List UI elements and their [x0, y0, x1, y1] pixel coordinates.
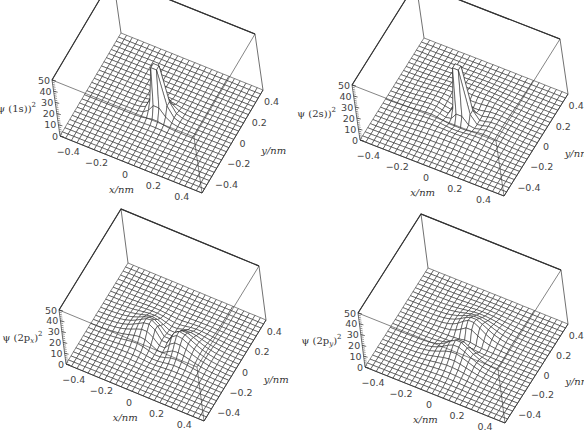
x-tick-label: −0.4 [57, 146, 80, 157]
x-tick-label: 0 [426, 399, 432, 410]
x-tick-label: 0.2 [149, 408, 164, 419]
y-tick-label: 0.4 [569, 330, 584, 341]
surface-plot-2px: 01020304050ψ (2px)2−0.4−0.200.20.4x/nm−0… [0, 217, 292, 434]
z-axis-ticks: 01020304050 [38, 75, 64, 142]
z-tick-label: 20 [43, 108, 55, 119]
x-tick-label: −0.4 [357, 150, 380, 161]
z-tick-label: 10 [44, 119, 56, 130]
surface-plot-1s: 01020304050ψ (1s))2−0.4−0.200.20.4x/nm−0… [0, 0, 292, 217]
x-tick-label: 0.4 [177, 419, 192, 430]
z-tick-label: 40 [340, 91, 352, 102]
x-axis-label: x/nm [113, 412, 138, 423]
z-tick-label: 0 [52, 131, 58, 142]
x-tick-label: −0.2 [386, 161, 409, 172]
x-axis-label: x/nm [413, 414, 438, 425]
z-tick-label: 40 [40, 86, 52, 97]
x-tick-label: 0.2 [449, 410, 464, 421]
x-tick-label: −0.4 [62, 374, 85, 385]
z-tick-label: 30 [347, 329, 359, 340]
plot-2py: 01020304050ψ (2py)2−0.4−0.200.20.4x/nm−0… [292, 217, 584, 434]
z-tick-label: 10 [51, 348, 63, 359]
y-tick-label: 0 [543, 141, 549, 152]
z-tick-label: 0 [58, 359, 64, 370]
y-axis-label: y/nm [260, 145, 286, 156]
x-tick-label: 0 [122, 169, 128, 180]
y-tick-label: 0.4 [264, 96, 279, 107]
x-tick-label: 0.4 [174, 191, 189, 202]
z-tick-label: 20 [49, 337, 61, 348]
x-tick-label: 0.2 [447, 183, 462, 194]
y-tick-label: 0 [242, 367, 248, 378]
z-tick-label: 30 [341, 102, 353, 113]
y-tick-label: 0.2 [556, 350, 571, 361]
y-tick-label: 0.2 [254, 346, 269, 357]
z-axis-label: ψ (2s))2 [297, 106, 336, 119]
y-tick-label: 0 [240, 138, 246, 149]
y-tick-label: −0.2 [530, 161, 553, 172]
x-tick-label: 0.4 [477, 421, 492, 432]
y-tick-label: −0.4 [215, 179, 238, 190]
z-tick-label: 30 [48, 326, 60, 337]
z-tick-label: 30 [41, 97, 53, 108]
z-tick-label: 40 [46, 315, 58, 326]
z-axis-label: ψ (2py)2 [301, 333, 341, 348]
y-tick-label: 0.2 [252, 117, 267, 128]
y-tick-label: −0.2 [230, 387, 253, 398]
z-tick-label: 20 [348, 340, 360, 351]
x-axis-label: x/nm [410, 187, 435, 198]
z-axis-ticks: 01020304050 [338, 80, 364, 146]
z-tick-label: 20 [343, 113, 355, 124]
z-tick-label: 0 [352, 135, 358, 146]
x-axis-label: x/nm [109, 184, 134, 195]
y-tick-label: 0 [544, 370, 550, 381]
y-tick-label: −0.4 [217, 407, 240, 418]
z-tick-label: 10 [344, 124, 356, 135]
x-tick-label: 0.4 [476, 194, 491, 205]
z-tick-label: 50 [45, 305, 57, 316]
surface-plot-2py: 01020304050ψ (2py)2−0.4−0.200.20.4x/nm−0… [292, 217, 584, 434]
plot-1s: 01020304050ψ (1s))2−0.4−0.200.20.4x/nm−0… [0, 0, 292, 217]
z-axis-label: ψ (1s))2 [0, 101, 36, 114]
y-tick-label: −0.4 [518, 409, 541, 420]
y-tick-label: 0.4 [569, 100, 584, 111]
z-tick-label: 50 [344, 308, 356, 319]
x-tick-label: 0 [423, 172, 429, 183]
z-tick-label: 0 [357, 362, 363, 373]
x-tick-label: 0.2 [146, 180, 161, 191]
y-tick-label: −0.2 [227, 158, 250, 169]
z-axis-label: ψ (2px)2 [2, 330, 42, 345]
x-tick-label: −0.2 [389, 388, 412, 399]
y-tick-label: −0.2 [531, 389, 554, 400]
x-tick-label: −0.2 [85, 157, 108, 168]
z-axis-ticks: 01020304050 [45, 305, 70, 370]
y-axis-label: y/nm [564, 148, 584, 159]
plot-2px: 01020304050ψ (2px)2−0.4−0.200.20.4x/nm−0… [0, 217, 292, 434]
z-tick-label: 50 [338, 80, 350, 91]
z-tick-label: 40 [345, 318, 357, 329]
y-tick-label: −0.4 [517, 182, 540, 193]
y-tick-label: 0.4 [267, 326, 282, 337]
surface-plot-2s: 01020304050ψ (2s))2−0.4−0.200.20.4x/nm−0… [292, 0, 584, 217]
y-tick-label: 0.2 [556, 121, 571, 132]
x-tick-label: 0 [126, 397, 132, 408]
z-tick-label: 50 [38, 75, 50, 86]
y-axis-label: y/nm [564, 376, 584, 387]
z-tick-label: 10 [350, 351, 362, 362]
y-axis-label: y/nm [263, 374, 289, 385]
plot-2s: 01020304050ψ (2s))2−0.4−0.200.20.4x/nm−0… [292, 0, 584, 217]
z-axis-ticks: 01020304050 [344, 308, 369, 373]
x-tick-label: −0.4 [361, 377, 384, 388]
x-tick-label: −0.2 [90, 385, 113, 396]
